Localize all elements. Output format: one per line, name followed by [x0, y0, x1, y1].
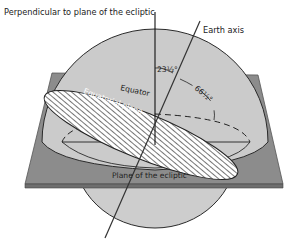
perpendicular-label: Perpendicular to plane of the ecliptic: [4, 7, 155, 17]
ecliptic-diagram: Perpendicular to plane of the ecliptic E…: [0, 0, 292, 250]
ecliptic-plane-label: Plane of the ecliptic: [112, 171, 187, 180]
angle-small-label: 23½°: [157, 65, 178, 74]
earth-axis-label: Earth axis: [203, 25, 244, 35]
